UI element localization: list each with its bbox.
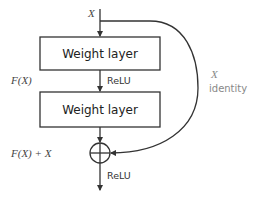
weight-layer-2-label: Weight layer bbox=[62, 103, 138, 117]
weight-layer-2: Weight layer bbox=[40, 92, 160, 127]
relu-label-middle: ReLU bbox=[107, 75, 131, 86]
shortcut-x-label: X bbox=[210, 68, 219, 80]
sum-label: F(X) + X bbox=[10, 147, 53, 160]
shortcut-identity-label: identity bbox=[209, 83, 247, 94]
input-x-label: X bbox=[87, 7, 96, 19]
residual-fx-label: F(X) bbox=[10, 74, 32, 87]
weight-layer-1-label: Weight layer bbox=[62, 47, 138, 61]
relu-label-output: ReLU bbox=[107, 170, 131, 181]
sum-node-icon bbox=[90, 143, 110, 163]
weight-layer-1: Weight layer bbox=[40, 37, 160, 70]
residual-block-diagram: X Weight layer ReLU F(X) Weight layer F(… bbox=[0, 0, 258, 197]
